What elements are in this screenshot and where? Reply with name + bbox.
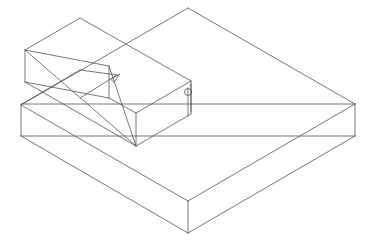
marker-glyphs [111,74,192,116]
base-slab [21,8,355,233]
wedge-block [22,18,191,146]
wireframe-drawing [0,0,377,245]
isometric-wireframe-canvas [0,0,377,245]
